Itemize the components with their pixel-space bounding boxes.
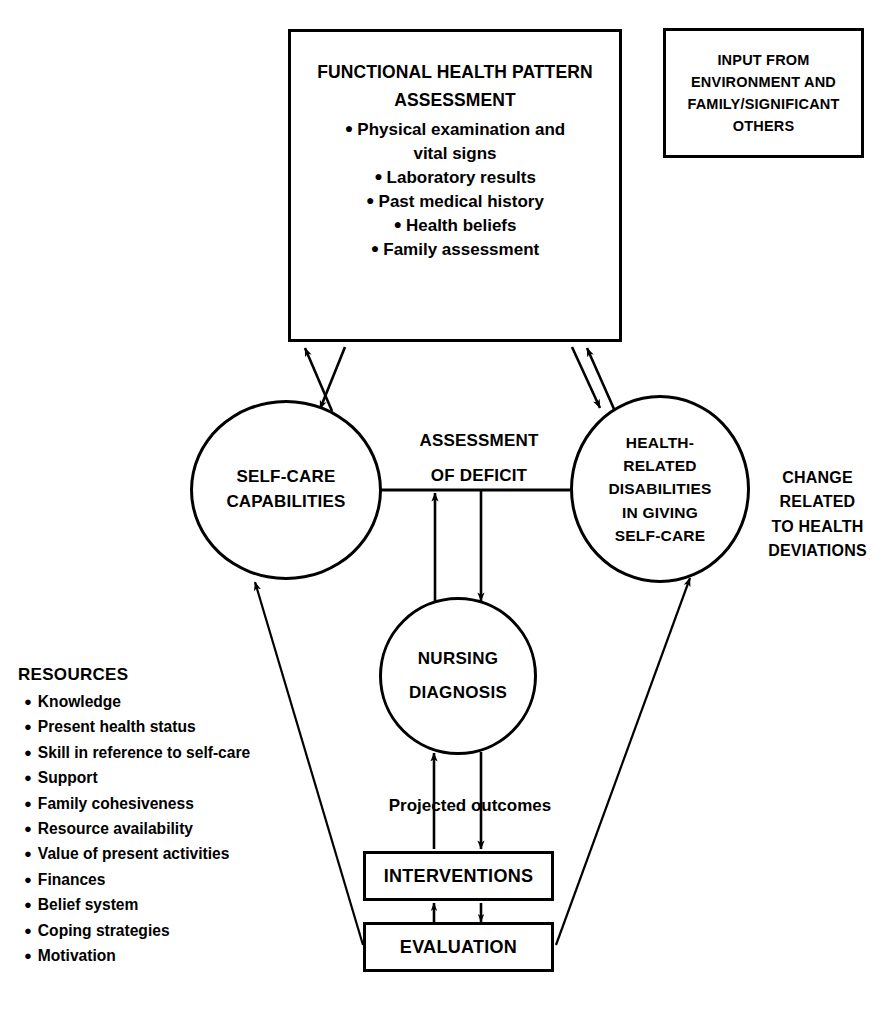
- resource-item: ●Belief system: [18, 892, 308, 917]
- interventions-box: INTERVENTIONS: [363, 851, 554, 901]
- health-related-line-1: RELATED: [623, 454, 696, 477]
- change-label-line-2: TO HEALTH: [750, 515, 885, 539]
- health-related-disabilities-circle: HEALTH- RELATED DISABILITIES IN GIVING S…: [570, 395, 750, 583]
- resource-item-text: Skill in reference to self-care: [38, 744, 250, 761]
- change-related-to-health-deviations-label: CHANGE RELATED TO HEALTH DEVIATIONS: [750, 466, 885, 563]
- change-label-line-0: CHANGE: [750, 466, 885, 490]
- nursing-diagnosis-circle: NURSING DIAGNOSIS: [379, 597, 537, 755]
- resource-item: ●Finances: [18, 867, 308, 892]
- resource-item-text: Family cohesiveness: [38, 795, 194, 812]
- functional-health-pattern-assessment-box: FUNCTIONAL HEALTH PATTERN ASSESSMENT ●Ph…: [288, 29, 622, 342]
- bullet-icon: ●: [24, 694, 32, 709]
- diagram-canvas: FUNCTIONAL HEALTH PATTERN ASSESSMENT ●Ph…: [0, 0, 892, 1021]
- resource-item: ●Present health status: [18, 714, 308, 739]
- bullet-icon: ●: [24, 872, 32, 887]
- bullet-icon: ●: [393, 216, 401, 232]
- bullet-icon: ●: [24, 821, 32, 836]
- assessment-item-2: ●Laboratory results: [345, 166, 565, 190]
- resource-item-text: Resource availability: [38, 820, 193, 837]
- nursing-diagnosis-line-1: DIAGNOSIS: [409, 676, 507, 710]
- bullet-icon: ●: [24, 923, 32, 938]
- bullet-icon: ●: [374, 168, 382, 184]
- health-related-line-0: HEALTH-: [626, 431, 694, 454]
- assessment-item-5: ●Family assessment: [345, 238, 565, 262]
- change-label-line-1: RELATED: [750, 490, 885, 514]
- bullet-icon: ●: [24, 846, 32, 861]
- input-from-environment-box: INPUT FROM ENVIRONMENT AND FAMILY/SIGNIF…: [663, 28, 864, 158]
- health-related-line-2: DISABILITIES: [608, 477, 711, 500]
- resource-item: ●Value of present activities: [18, 841, 308, 866]
- resource-item-text: Finances: [38, 871, 106, 888]
- self-care-line-0: SELF-CARE: [236, 465, 335, 490]
- resource-item: ●Support: [18, 765, 308, 790]
- connector-evaluation-to-health-related: [556, 578, 690, 945]
- resources-list: RESOURCES ●Knowledge ●Present health sta…: [18, 665, 308, 968]
- bullet-icon: ●: [371, 240, 379, 256]
- assessment-of-deficit-line-0: ASSESSMENT: [399, 424, 559, 459]
- connector-assessment-to-self-care: [305, 347, 345, 411]
- evaluation-box: EVALUATION: [363, 922, 554, 972]
- bullet-icon: ●: [24, 897, 32, 912]
- interventions-label: INTERVENTIONS: [384, 866, 534, 887]
- connector-interventions-to-evaluation: [434, 903, 481, 922]
- self-care-capabilities-circle: SELF-CARE CAPABILITIES: [190, 400, 382, 580]
- resource-item: ●Family cohesiveness: [18, 791, 308, 816]
- assessment-bullet-list: ●Physical examination and vital signs ●L…: [345, 118, 565, 263]
- assessment-of-deficit-label: ASSESSMENT OF DEFICIT: [399, 424, 559, 494]
- resource-item: ●Knowledge: [18, 689, 308, 714]
- bullet-icon: ●: [366, 192, 374, 208]
- resource-item-text: Present health status: [38, 718, 196, 735]
- input-box-line-3: OTHERS: [733, 115, 795, 137]
- resources-title: RESOURCES: [18, 665, 308, 685]
- assessment-heading-line-2: ASSESSMENT: [394, 86, 516, 114]
- bullet-icon: ●: [345, 120, 353, 136]
- connector-assessment-to-health-related: [572, 347, 614, 409]
- resource-item-text: Support: [38, 769, 98, 786]
- bullet-icon: ●: [24, 796, 32, 811]
- assessment-item-text: Past medical history: [379, 192, 544, 211]
- bullet-icon: ●: [24, 948, 32, 963]
- resource-item-text: Belief system: [38, 896, 139, 913]
- health-related-line-4: SELF-CARE: [615, 524, 706, 547]
- resource-item: ●Coping strategies: [18, 918, 308, 943]
- resource-item-text: Motivation: [38, 947, 116, 964]
- assessment-item-0: ●Physical examination and: [345, 118, 565, 142]
- evaluation-label: EVALUATION: [400, 937, 517, 958]
- assessment-item-3: ●Past medical history: [345, 190, 565, 214]
- resource-item: ●Resource availability: [18, 816, 308, 841]
- projected-outcomes-label: Projected outcomes: [370, 796, 570, 816]
- bullet-icon: ●: [24, 770, 32, 785]
- assessment-heading-line-1: FUNCTIONAL HEALTH PATTERN: [317, 58, 592, 86]
- assessment-item-text: vital signs: [413, 144, 496, 163]
- bullet-icon: ●: [24, 745, 32, 760]
- nursing-diagnosis-line-0: NURSING: [418, 642, 499, 676]
- assessment-item-text: Family assessment: [383, 240, 539, 259]
- resources-items: ●Knowledge ●Present health status ●Skill…: [18, 689, 308, 968]
- assessment-item-text: Health beliefs: [406, 216, 517, 235]
- resource-item-text: Knowledge: [38, 693, 121, 710]
- resource-item: ●Motivation: [18, 943, 308, 968]
- input-box-line-0: INPUT FROM: [717, 49, 809, 71]
- input-box-line-2: FAMILY/SIGNIFICANT: [687, 93, 839, 115]
- assessment-item-text: Physical examination and: [357, 120, 565, 139]
- connector-deficit-to-nursing-diagnosis: [435, 490, 481, 603]
- self-care-line-1: CAPABILITIES: [226, 490, 345, 515]
- resource-item-text: Value of present activities: [38, 845, 230, 862]
- assessment-item-text: Laboratory results: [387, 168, 536, 187]
- assessment-item-4: ●Health beliefs: [345, 214, 565, 238]
- resource-item: ●Skill in reference to self-care: [18, 740, 308, 765]
- input-box-line-1: ENVIRONMENT AND: [691, 71, 836, 93]
- resource-item-text: Coping strategies: [38, 922, 170, 939]
- health-related-line-3: IN GIVING: [622, 501, 698, 524]
- change-label-line-3: DEVIATIONS: [750, 539, 885, 563]
- assessment-of-deficit-line-1: OF DEFICIT: [399, 459, 559, 494]
- assessment-item-1: vital signs: [345, 142, 565, 166]
- bullet-icon: ●: [24, 719, 32, 734]
